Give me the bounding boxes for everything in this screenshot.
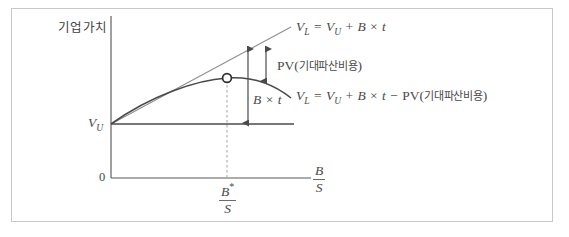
figure-root: 기업가치 VU 0 B* S B S VL = VU + B × t PV(기대… <box>0 0 569 237</box>
optimal-leverage-tick-label: B* S <box>219 182 236 216</box>
tax-shield-magnitude-label: B × t <box>253 93 281 107</box>
eq2-rhs-v: V <box>326 88 334 103</box>
eq2-rhs-v-subscript: U <box>334 96 341 106</box>
bt-b: B <box>253 92 261 107</box>
equation-tradeoff: VL = VU + B × t − PV(기대파산비용) <box>296 89 487 106</box>
leverage-ratio-fraction: B S <box>313 164 325 195</box>
eq2-lhs-subscript: L <box>304 96 309 106</box>
chart-canvas <box>0 0 569 237</box>
eq1-rhs-t: t <box>382 19 386 34</box>
bt-t: t <box>278 92 282 107</box>
optimal-leverage-numerator: B* <box>219 182 236 201</box>
eq1-rhs-v: V <box>326 19 334 34</box>
pv-prefix: PV <box>277 58 294 73</box>
origin-label: 0 <box>99 171 105 184</box>
eq2-pv-close-paren: ) <box>483 88 488 103</box>
unlevered-value-subscript: U <box>96 123 103 133</box>
eq2-rhs-b: B <box>357 88 365 103</box>
eq1-equals: = <box>313 19 323 34</box>
eq1-lhs-subscript: L <box>304 27 309 37</box>
optimal-leverage-denominator: S <box>219 201 236 216</box>
eq2-pv-argument-korean: 기대파산비용 <box>424 90 483 103</box>
y-axis-title: 기업가치 <box>58 22 107 35</box>
bt-times: × <box>265 92 275 107</box>
pv-close-paren: ) <box>358 58 363 73</box>
eq2-plus: + <box>344 88 354 103</box>
leverage-ratio-numerator: B <box>313 164 325 180</box>
pv-bankruptcy-cost-label: PV(기대파산비용) <box>277 59 362 73</box>
eq2-lhs-symbol: V <box>296 88 304 103</box>
optimal-leverage-fraction: B* S <box>219 182 236 216</box>
pv-argument-korean: 기대파산비용 <box>299 60 358 73</box>
eq1-plus: + <box>344 19 354 34</box>
equation-tax-shield: VL = VU + B × t <box>296 20 386 37</box>
eq1-times: × <box>369 19 379 34</box>
eq2-rhs-t: t <box>382 88 386 103</box>
eq2-times: × <box>369 88 379 103</box>
eq2-minus: − <box>389 88 399 103</box>
x-axis-title: B S <box>313 164 325 195</box>
eq2-equals: = <box>313 88 323 103</box>
tax-shield-line <box>111 27 291 124</box>
unlevered-value-symbol: V <box>88 115 96 130</box>
eq1-rhs-b: B <box>357 19 365 34</box>
leverage-ratio-denominator: S <box>313 180 325 195</box>
eq2-pv-prefix: PV <box>402 88 419 103</box>
eq1-lhs-symbol: V <box>296 19 304 34</box>
optimal-point-marker <box>223 74 232 83</box>
eq1-rhs-v-subscript: U <box>334 27 341 37</box>
unlevered-value-label: VU <box>88 116 103 133</box>
